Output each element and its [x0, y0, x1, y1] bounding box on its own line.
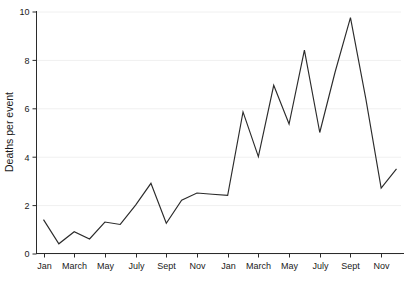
y-tick-label-2: 2	[24, 201, 29, 211]
x-tick-label-9: July	[312, 261, 329, 271]
x-tick-label-10: Sept	[341, 261, 360, 271]
y-tick-label-10: 10	[19, 7, 29, 17]
x-tick-label-2: May	[97, 261, 115, 271]
y-tick-label-6: 6	[24, 104, 29, 114]
y-tick-label-4: 4	[24, 153, 29, 163]
chart-background	[0, 0, 411, 287]
deaths-per-event-line-chart: 0246810 JanMarchMayJulySeptNovJanMarchMa…	[0, 0, 411, 287]
x-tick-label-5: Nov	[189, 261, 206, 271]
y-axis-title: Deaths per event	[3, 92, 15, 172]
x-tick-label-3: July	[128, 261, 145, 271]
x-tick-label-1: March	[62, 261, 87, 271]
x-tick-label-0: Jan	[37, 261, 52, 271]
y-tick-label-8: 8	[24, 56, 29, 66]
y-tick-label-0: 0	[24, 249, 29, 259]
x-tick-label-8: May	[281, 261, 299, 271]
x-tick-label-4: Sept	[157, 261, 176, 271]
x-tick-label-11: Nov	[373, 261, 390, 271]
x-tick-label-7: March	[246, 261, 271, 271]
x-tick-label-6: Jan	[221, 261, 236, 271]
chart-container: 0246810 JanMarchMayJulySeptNovJanMarchMa…	[0, 0, 411, 287]
